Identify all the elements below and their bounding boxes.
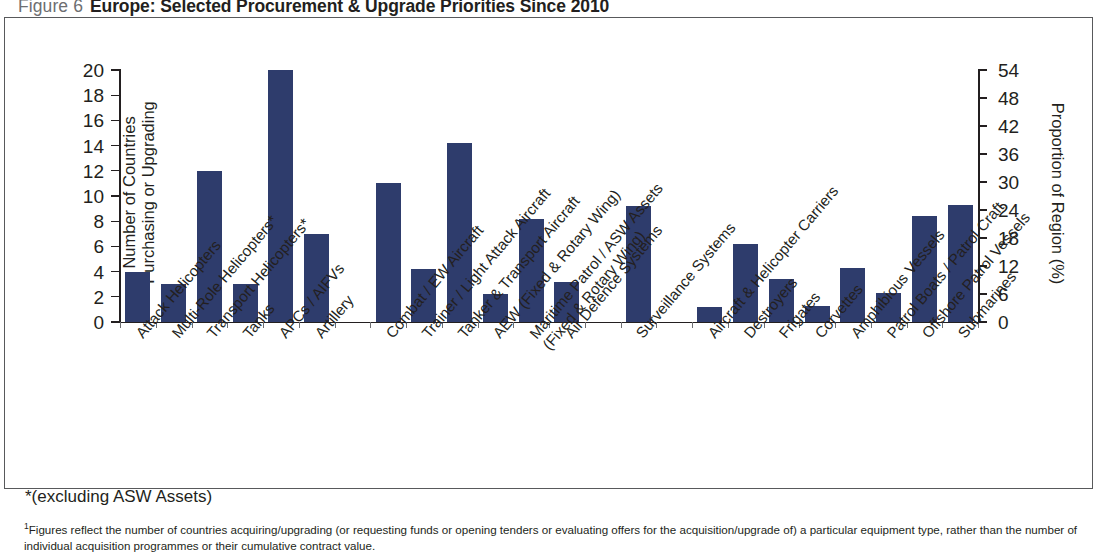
y2-tick-label: 6	[998, 285, 1009, 304]
x-tick	[692, 322, 693, 328]
y2-tick	[978, 293, 987, 294]
x-tick	[192, 322, 193, 328]
x-tick	[442, 322, 443, 328]
bar[interactable]	[519, 219, 544, 322]
bar[interactable]	[769, 279, 794, 322]
y-tick-label: 2	[93, 288, 104, 307]
y-tick	[111, 221, 120, 222]
y2-tick-label: 24	[998, 201, 1019, 220]
y-tick-label: 8	[93, 212, 104, 231]
y2-tick	[978, 69, 987, 70]
y-tick	[111, 321, 120, 322]
figure-title-text: Europe: Selected Procurement & Upgrade P…	[90, 0, 609, 17]
bar[interactable]	[697, 307, 722, 322]
y-tick-label: 4	[93, 263, 104, 282]
y-tick	[111, 145, 120, 146]
x-tick	[549, 322, 550, 328]
bar[interactable]	[411, 269, 436, 322]
y2-tick	[978, 153, 987, 154]
bar[interactable]	[626, 206, 651, 322]
y2-tick	[978, 265, 987, 266]
bar[interactable]	[876, 293, 901, 322]
x-tick	[621, 322, 622, 328]
x-tick	[942, 322, 943, 328]
y2-axis-title: Proportion of Region (%)	[1028, 62, 1088, 324]
x-tick	[728, 322, 729, 328]
x-tick	[799, 322, 800, 328]
footnote-text: Figures reflect the number of countries …	[24, 523, 1077, 552]
bar[interactable]	[912, 216, 937, 322]
asterisk-note: *(excluding ASW Assets)	[25, 487, 212, 507]
footnote: 1Figures reflect the number of countries…	[24, 520, 1079, 554]
x-tick	[907, 322, 908, 328]
x-tick	[263, 322, 264, 328]
y2-tick-label: 0	[998, 313, 1009, 332]
bar[interactable]	[733, 244, 758, 322]
y2-tick-label: 54	[998, 61, 1019, 80]
bar[interactable]	[125, 272, 150, 322]
x-tick	[871, 322, 872, 328]
y2-tick	[978, 321, 987, 322]
y2-tick	[978, 97, 987, 98]
y-tick	[111, 120, 120, 121]
bar[interactable]	[161, 284, 186, 322]
y2-axis-title-text: Proportion of Region (%)	[1049, 102, 1068, 284]
bar[interactable]	[483, 294, 508, 322]
x-tick	[227, 322, 228, 328]
figure-number: Figure 6	[18, 0, 83, 17]
y-tick	[111, 69, 120, 70]
x-tick	[335, 322, 336, 328]
y2-tick	[978, 181, 987, 182]
y-tick	[111, 95, 120, 96]
y-tick	[111, 170, 120, 171]
x-tick	[978, 322, 979, 328]
x-tick	[406, 322, 407, 328]
bar[interactable]	[268, 70, 293, 322]
y2-axis-line	[978, 69, 980, 323]
y2-tick-label: 18	[998, 229, 1019, 248]
plot-area: 02468101214161820061218243036424854	[120, 70, 978, 322]
x-tick	[513, 322, 514, 328]
x-tick	[370, 322, 371, 328]
y2-tick	[978, 125, 987, 126]
y-tick	[111, 296, 120, 297]
x-tick	[764, 322, 765, 328]
y-tick-label: 10	[83, 187, 104, 206]
y-tick	[111, 195, 120, 196]
x-tick	[835, 322, 836, 328]
y-tick-label: 16	[83, 111, 104, 130]
y2-tick	[978, 237, 987, 238]
x-tick	[585, 322, 586, 328]
y-tick-label: 18	[83, 86, 104, 105]
y2-tick-label: 30	[998, 173, 1019, 192]
bar[interactable]	[805, 306, 830, 322]
x-tick	[299, 322, 300, 328]
y2-tick-label: 48	[998, 89, 1019, 108]
y-tick-label: 6	[93, 237, 104, 256]
y2-tick-label: 12	[998, 257, 1019, 276]
bar[interactable]	[233, 284, 258, 322]
y-tick	[111, 246, 120, 247]
y2-tick-label: 36	[998, 145, 1019, 164]
bar[interactable]	[840, 268, 865, 322]
bar[interactable]	[447, 143, 472, 322]
y-tick-label: 12	[83, 162, 104, 181]
y-tick	[111, 271, 120, 272]
bar[interactable]	[376, 183, 401, 322]
bar[interactable]	[197, 171, 222, 322]
x-tick	[156, 322, 157, 328]
x-tick	[656, 322, 657, 328]
x-tick	[478, 322, 479, 328]
bar[interactable]	[948, 205, 973, 322]
x-tick	[120, 322, 121, 328]
bar[interactable]	[304, 234, 329, 322]
y2-tick	[978, 209, 987, 210]
y-tick-label: 0	[93, 313, 104, 332]
y-tick-label: 20	[83, 61, 104, 80]
bar[interactable]	[554, 282, 579, 322]
y2-tick-label: 42	[998, 117, 1019, 136]
y-tick-label: 14	[83, 137, 104, 156]
